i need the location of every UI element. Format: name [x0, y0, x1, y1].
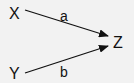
edge-label-b: b	[60, 64, 68, 80]
node-x: X	[9, 5, 20, 22]
node-z: Z	[113, 34, 123, 51]
node-y: Y	[9, 65, 20, 82]
path-diagram: X Y Z a b	[0, 0, 134, 83]
edge-label-a: a	[60, 8, 68, 24]
